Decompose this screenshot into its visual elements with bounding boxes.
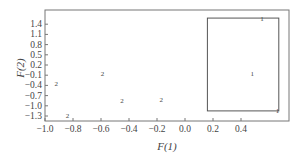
plot-frame: [45, 10, 289, 121]
data-point-group-2: 2: [54, 80, 58, 88]
x-tick-label: 0.0: [179, 124, 191, 134]
x-tick-label: −1.0: [36, 124, 53, 134]
y-axis-title: F(2): [14, 58, 27, 79]
x-axis: −1.0−0.8−0.6−0.4−0.20.00.20.4: [36, 118, 247, 134]
data-point-group-2: 2: [66, 112, 70, 120]
y-tick-label: 0.2: [30, 60, 42, 70]
group-1-boundary-box: [207, 18, 278, 111]
y-tick-label: 1.1: [30, 29, 42, 39]
x-tick-label: 0.2: [207, 124, 219, 134]
y-tick-label: 1.4: [30, 19, 42, 29]
y-tick-label: −0.4: [25, 80, 42, 90]
data-point-group-2: 2: [159, 96, 163, 104]
x-tick-label: −0.8: [64, 124, 81, 134]
data-point-group-2: 2: [101, 70, 105, 78]
scatter-chart: −1.0−0.8−0.6−0.4−0.20.00.20.4 1.41.10.80…: [0, 0, 299, 158]
y-tick-label: −0.1: [25, 70, 42, 80]
x-tick-label: 0.4: [235, 124, 247, 134]
y-tick-label: −1.0: [25, 101, 42, 111]
x-tick-label: −0.6: [92, 124, 109, 134]
x-tick-label: −0.4: [120, 124, 137, 134]
data-point-group-1: 1: [260, 15, 264, 23]
y-tick-label: 0.5: [30, 50, 42, 60]
data-point-group-1: 1: [276, 107, 280, 115]
y-tick-label: 0.8: [30, 40, 42, 50]
x-tick-label: −0.2: [148, 124, 165, 134]
y-tick-label: −1.3: [25, 111, 42, 121]
data-points: 11122222: [54, 15, 279, 120]
x-axis-title: F(1): [156, 140, 177, 153]
y-tick-label: −0.7: [25, 91, 42, 101]
data-point-group-2: 2: [120, 97, 124, 105]
data-point-group-1: 1: [250, 70, 254, 78]
